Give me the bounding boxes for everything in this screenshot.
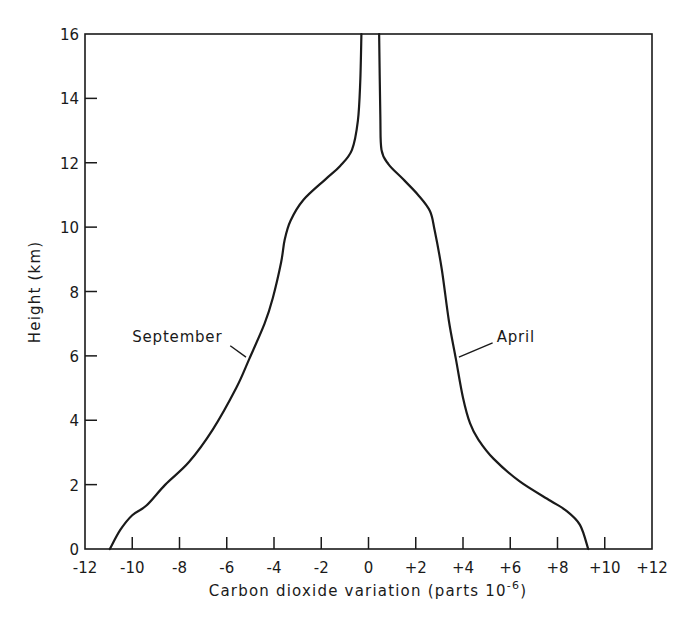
x-axis-title-suffix: ) [520,582,527,600]
x-tick-label: +12 [636,559,668,577]
y-tick-label: 8 [69,284,79,302]
y-tick-label: 16 [60,26,79,44]
y-axis-ticks: 0246810121416 [60,26,97,559]
x-tick-label: +8 [546,559,568,577]
x-tick-label: -10 [120,559,145,577]
x-tick-label: +4 [452,559,474,577]
y-axis-title: Height (km) [26,241,44,344]
x-tick-label: -8 [172,559,187,577]
y-tick-label: 6 [69,348,79,366]
plot-border [85,34,652,549]
annotation-label-april: April [497,328,535,346]
y-tick-label: 14 [60,90,79,108]
x-tick-label: 0 [364,559,374,577]
y-tick-label: 0 [69,541,79,559]
plot-frame [85,34,652,549]
x-tick-label: +2 [405,559,427,577]
y-tick-label: 4 [69,412,79,430]
x-tick-label: -4 [267,559,282,577]
series-layer [110,34,588,549]
y-tick-label: 10 [60,219,79,237]
annotations: SeptemberApril [132,328,535,357]
y-tick-label: 2 [69,477,79,495]
x-axis-ticks: -12-10-8-6-4-20+2+4+6+8+10+12 [73,537,668,577]
annotation-leader-line [230,346,246,357]
x-tick-label: +10 [589,559,621,577]
series-line-april [379,34,588,549]
series-line-september [110,34,362,549]
x-axis-title-main: Carbon dioxide variation (parts 10 [209,582,507,600]
x-axis-title-superscript: -6 [507,579,520,592]
annotation-leader-line [459,343,493,357]
x-tick-label: -12 [73,559,98,577]
y-tick-label: 12 [60,155,79,173]
x-tick-label: -2 [314,559,329,577]
chart: -12-10-8-6-4-20+2+4+6+8+10+12 0246810121… [0,0,691,623]
annotation-label-september: September [132,328,222,346]
x-tick-label: -6 [219,559,234,577]
x-tick-label: +6 [499,559,521,577]
x-axis-title: Carbon dioxide variation (parts 10-6) [209,579,527,600]
